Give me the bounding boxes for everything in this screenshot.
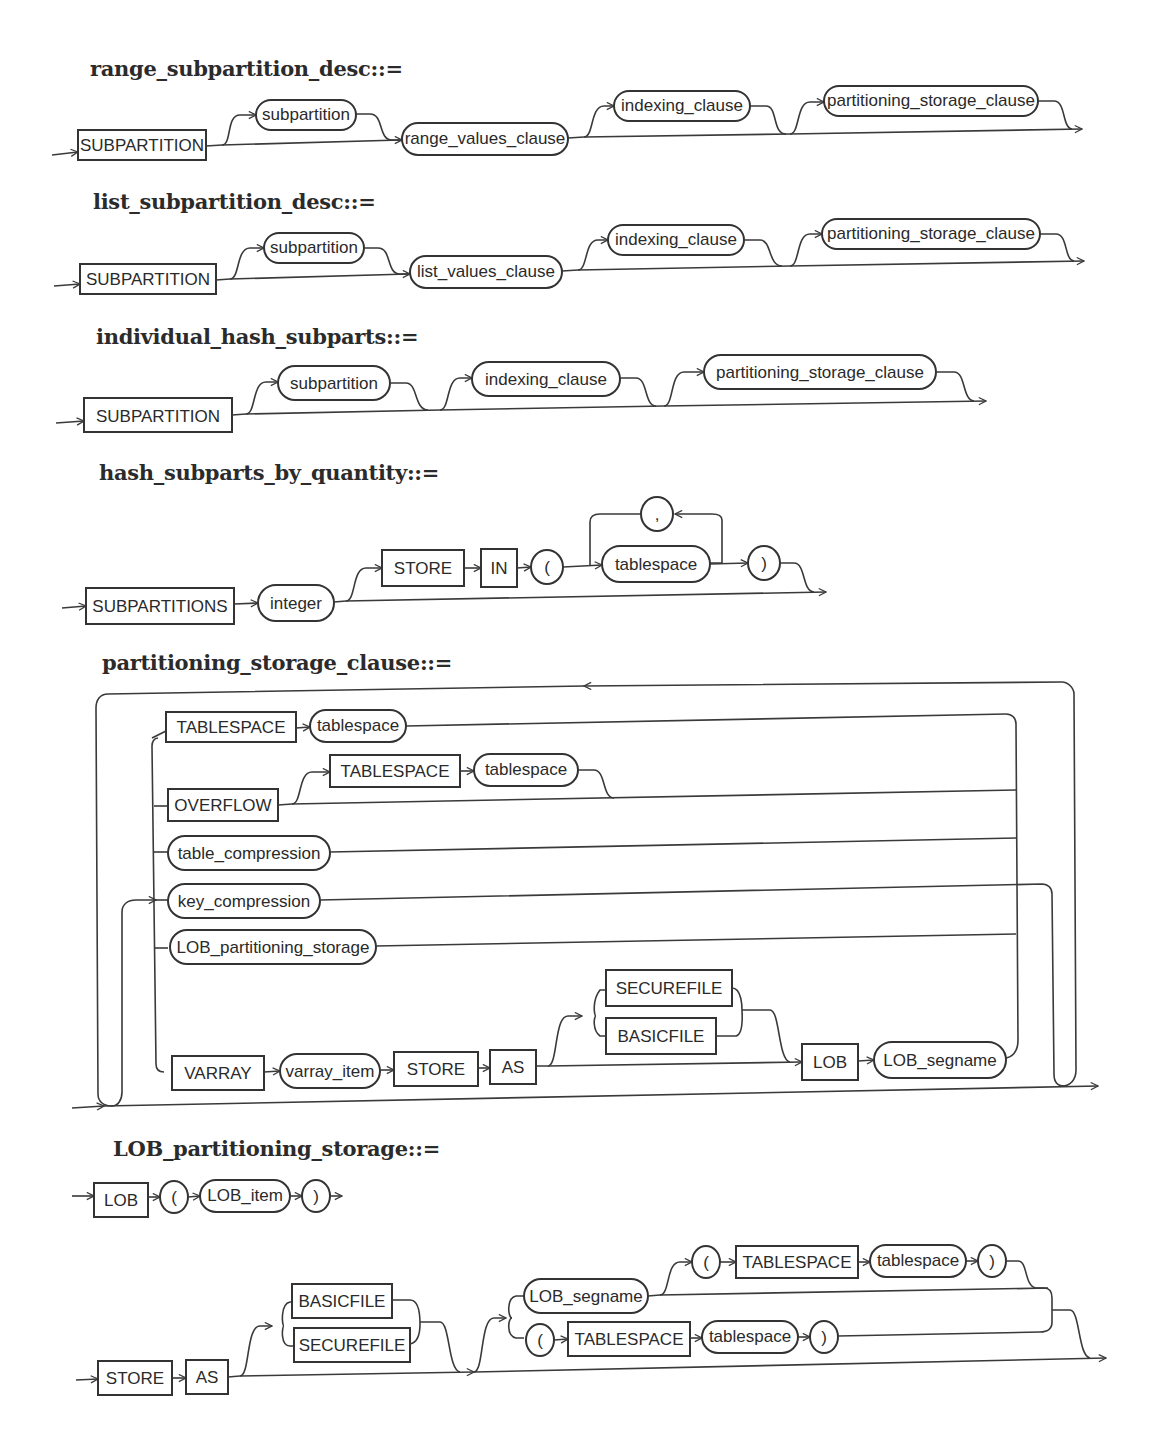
nonterminal-partitioning-storage-clause: partitioning_storage_clause xyxy=(822,219,1040,249)
symbol-left-paren: ( xyxy=(531,550,563,584)
nonterminal-lob-item: LOB_item xyxy=(200,1180,290,1212)
svg-text:LOB: LOB xyxy=(104,1191,138,1210)
nonterminal-indexing-clause: indexing_clause xyxy=(608,225,744,255)
keyword-tablespace: TABLESPACE xyxy=(736,1246,858,1278)
keyword-store: STORE xyxy=(382,550,464,586)
svg-text:subpartition: subpartition xyxy=(290,374,378,393)
svg-text:key_compression: key_compression xyxy=(178,892,310,911)
nonterminal-tablespace: tablespace xyxy=(870,1245,966,1277)
svg-text:(: ( xyxy=(171,1188,177,1207)
nonterminal-partitioning-storage-clause: partitioning_storage_clause xyxy=(824,86,1038,116)
svg-text:list_values_clause: list_values_clause xyxy=(417,262,555,281)
svg-text:STORE: STORE xyxy=(106,1369,164,1388)
keyword-tablespace: TABLESPACE xyxy=(166,712,296,742)
svg-text:LOB_segname: LOB_segname xyxy=(529,1287,642,1306)
nonterminal-list-values-clause: list_values_clause xyxy=(410,256,562,288)
svg-text:): ) xyxy=(821,1328,827,1347)
keyword-tablespace: TABLESPACE xyxy=(330,755,460,787)
svg-text:subpartition: subpartition xyxy=(262,105,350,124)
svg-text:LOB_segname: LOB_segname xyxy=(883,1051,996,1070)
keyword-subpartition: SUBPARTITION xyxy=(84,398,232,432)
symbol-left-paren: ( xyxy=(160,1181,188,1213)
svg-text:table_compression: table_compression xyxy=(178,844,321,863)
svg-text:STORE: STORE xyxy=(407,1060,465,1079)
symbol-right-paren: ) xyxy=(810,1321,838,1353)
keyword-basicfile: BASICFILE xyxy=(292,1284,392,1318)
nonterminal-key-compression: key_compression xyxy=(168,884,320,918)
keyword-lob: LOB xyxy=(802,1044,858,1080)
svg-text:(: ( xyxy=(703,1253,709,1272)
symbol-right-paren: ) xyxy=(748,546,780,580)
svg-text:integer: integer xyxy=(270,594,322,613)
nonterminal-lob-partitioning-storage: LOB_partitioning_storage xyxy=(170,930,376,964)
symbol-comma: , xyxy=(641,497,673,531)
svg-text:SUBPARTITION: SUBPARTITION xyxy=(86,270,210,289)
keyword-subpartition: SUBPARTITION xyxy=(80,264,216,294)
svg-text:SUBPARTITIONS: SUBPARTITIONS xyxy=(92,597,227,616)
nonterminal-subpartition: subpartition xyxy=(278,366,390,400)
nonterminal-integer: integer xyxy=(258,585,334,621)
diagram-partitioning-storage-clause: TABLESPACE tablespace OVERFLOW TABLESPAC… xyxy=(72,682,1098,1108)
svg-text:AS: AS xyxy=(502,1058,525,1077)
svg-text:TABLESPACE: TABLESPACE xyxy=(743,1253,852,1272)
nonterminal-lob-segname: LOB_segname xyxy=(874,1042,1006,1078)
nonterminal-varray-item: varray_item xyxy=(280,1054,380,1088)
svg-text:partitioning_storage_clause: partitioning_storage_clause xyxy=(827,224,1035,243)
svg-text:SUBPARTITION: SUBPARTITION xyxy=(96,407,220,426)
nonterminal-table-compression: table_compression xyxy=(168,836,330,870)
svg-text:): ) xyxy=(313,1187,319,1206)
svg-text:tablespace: tablespace xyxy=(485,760,567,779)
svg-text:,: , xyxy=(655,505,660,524)
keyword-basicfile: BASICFILE xyxy=(606,1018,716,1054)
svg-text:LOB: LOB xyxy=(813,1053,847,1072)
syntax-diagrams-canvas: SUBPARTITION subpartition range_values_c… xyxy=(0,0,1151,1429)
nonterminal-tablespace: tablespace xyxy=(702,1321,798,1353)
keyword-store: STORE xyxy=(98,1361,172,1395)
keyword-lob: LOB xyxy=(94,1183,148,1217)
svg-text:IN: IN xyxy=(491,559,508,578)
keyword-securefile: SECUREFILE xyxy=(294,1328,410,1362)
svg-text:varray_item: varray_item xyxy=(286,1062,375,1081)
svg-text:(: ( xyxy=(544,558,550,577)
svg-text:partitioning_storage_clause: partitioning_storage_clause xyxy=(827,91,1035,110)
svg-text:): ) xyxy=(989,1252,995,1271)
svg-text:range_values_clause: range_values_clause xyxy=(405,129,566,148)
symbol-right-paren: ) xyxy=(978,1245,1006,1277)
nonterminal-indexing-clause: indexing_clause xyxy=(472,362,620,396)
nonterminal-lob-segname: LOB_segname xyxy=(524,1279,648,1313)
svg-text:TABLESPACE: TABLESPACE xyxy=(177,718,286,737)
svg-text:STORE: STORE xyxy=(394,559,452,578)
svg-text:partitioning_storage_clause: partitioning_storage_clause xyxy=(716,363,924,382)
keyword-tablespace: TABLESPACE xyxy=(568,1322,690,1356)
keyword-varray: VARRAY xyxy=(172,1056,264,1090)
symbol-right-paren: ) xyxy=(302,1180,330,1212)
nonterminal-tablespace: tablespace xyxy=(310,710,406,742)
svg-text:LOB_partitioning_storage: LOB_partitioning_storage xyxy=(177,938,370,957)
nonterminal-indexing-clause: indexing_clause xyxy=(614,91,750,121)
svg-text:tablespace: tablespace xyxy=(317,716,399,735)
svg-text:SECUREFILE: SECUREFILE xyxy=(299,1336,406,1355)
svg-text:subpartition: subpartition xyxy=(270,238,358,257)
svg-text:SECUREFILE: SECUREFILE xyxy=(616,979,723,998)
svg-text:tablespace: tablespace xyxy=(877,1251,959,1270)
diagram-range-subpartition-desc: SUBPARTITION subpartition range_values_c… xyxy=(52,86,1082,160)
svg-text:tablespace: tablespace xyxy=(615,555,697,574)
svg-text:LOB_item: LOB_item xyxy=(207,1186,283,1205)
svg-text:VARRAY: VARRAY xyxy=(184,1064,251,1083)
nonterminal-tablespace: tablespace xyxy=(602,546,710,582)
svg-text:BASICFILE: BASICFILE xyxy=(618,1027,705,1046)
keyword-subpartition: SUBPARTITION xyxy=(78,130,206,160)
keyword-overflow: OVERFLOW xyxy=(168,789,278,821)
nonterminal-tablespace: tablespace xyxy=(474,754,578,786)
diagram-individual-hash-subparts: SUBPARTITION subpartition indexing_claus… xyxy=(56,355,986,432)
keyword-securefile: SECUREFILE xyxy=(606,970,732,1006)
svg-text:BASICFILE: BASICFILE xyxy=(299,1292,386,1311)
svg-text:AS: AS xyxy=(196,1368,219,1387)
diagram-hash-subparts-by-quantity: SUBPARTITIONS integer STORE IN ( , xyxy=(62,497,826,624)
keyword-subpartitions: SUBPARTITIONS xyxy=(86,588,234,624)
svg-text:OVERFLOW: OVERFLOW xyxy=(174,796,271,815)
diagram-lob-partitioning-storage: LOB ( LOB_item ) STORE AS xyxy=(72,1180,1106,1395)
svg-text:indexing_clause: indexing_clause xyxy=(621,96,743,115)
keyword-as: AS xyxy=(490,1050,536,1084)
nonterminal-partitioning-storage-clause: partitioning_storage_clause xyxy=(704,355,936,389)
